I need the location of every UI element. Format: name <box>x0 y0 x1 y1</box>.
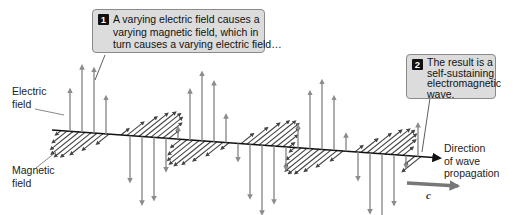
magnetic-field-vector <box>168 140 193 160</box>
magnetic-field-vector <box>361 139 377 152</box>
propagation-axis <box>52 130 440 158</box>
magnetic-field-vector <box>391 135 416 155</box>
speed-arrow <box>407 183 458 186</box>
callout-1-line-2: varying magnetic field, which in <box>113 26 259 39</box>
magnetic-field-vector <box>62 133 91 157</box>
magnetic-field-vector <box>51 132 73 149</box>
callout-2-number-badge: 2 <box>412 59 423 70</box>
magnetic-field-vector <box>55 132 85 156</box>
magnetic-field-vector <box>296 150 325 174</box>
magnetic-field-vector <box>259 121 288 145</box>
electric-field-label: Electric field <box>12 85 46 110</box>
magnetic-field-vector <box>277 129 299 146</box>
magnetic-field-vector <box>207 142 223 155</box>
magnetic-field-vector <box>367 134 390 153</box>
magnetic-field-vector <box>127 123 143 136</box>
callout-2-line-4: wave. <box>427 89 490 100</box>
speed-of-light-label: c <box>426 189 431 201</box>
callout-2-line-1: The result is a <box>427 57 490 68</box>
callout-1: 1 A varying electric field causes a vary… <box>92 9 265 53</box>
callout-2-leader <box>422 98 430 152</box>
magnetic-field-vector <box>145 113 175 137</box>
magnetic-field-vector <box>289 149 319 173</box>
callout-1-line-3: turn causes a varying electric field… <box>113 38 259 51</box>
magnetic-field-vector <box>265 122 295 146</box>
magnetic-field-label: Magnetic field <box>12 164 55 189</box>
magnetic-field-vector <box>194 142 217 161</box>
magnetic-field-vector <box>222 143 229 149</box>
magnetic-field-vector <box>283 136 297 147</box>
callout-1-leader <box>95 55 105 80</box>
magnetic-field-vector <box>133 117 156 136</box>
magnetic-field-vector <box>355 146 362 152</box>
magnetic-field-vector <box>175 141 205 165</box>
magnetic-field-vector <box>97 134 109 143</box>
magnetic-field-vector <box>285 148 307 165</box>
magnetic-field-vector <box>379 130 409 154</box>
magnetic-field-vector <box>287 148 301 159</box>
magnetic-field-vector <box>241 134 253 143</box>
callout-2-line-3: electromagnetic <box>427 78 490 89</box>
magnetic-field-vector <box>71 133 97 154</box>
propagation-direction-label: Direction of wave propagation <box>444 142 499 180</box>
magnetic-field-vector <box>253 124 279 145</box>
magnetic-field-vector <box>331 151 343 160</box>
callout-1-number-badge: 1 <box>98 14 109 25</box>
callout-1-line-1: A varying electric field causes a <box>113 13 259 26</box>
callout-2: 2 The result is a self-sustaining electr… <box>406 54 496 99</box>
magnetic-field-vector <box>121 129 128 135</box>
magnetic-field-vector <box>305 150 331 171</box>
magnetic-field-vector <box>53 131 67 142</box>
